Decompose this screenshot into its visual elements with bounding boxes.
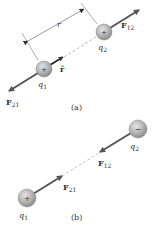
force12-label-b: F12 [98, 158, 112, 169]
charge-q2: + [96, 24, 112, 40]
charge-q2-b: − [129, 120, 147, 138]
separation-dashed-line [64, 37, 96, 57]
part-a: r r̂ + q1 + q2 F12 F21 (a) [6, 3, 139, 112]
force12-label: F12 [121, 20, 135, 31]
charge-q2-label-b: q2 [130, 142, 139, 152]
charge-q1: + [36, 61, 52, 77]
part-a-caption: (a) [71, 103, 82, 112]
svg-text:+: + [41, 66, 47, 74]
force21-arrow [9, 73, 38, 91]
dimension-extension-right [81, 3, 97, 24]
dimension-extension-left [22, 33, 38, 60]
svg-text:+: + [101, 29, 107, 37]
svg-text:+: + [24, 194, 31, 203]
distance-label: r [57, 20, 62, 29]
force21-label: F21 [6, 97, 19, 108]
charge-q1-label-b: q1 [19, 211, 28, 221]
distance-dimension-line [28, 9, 84, 41]
coulomb-force-diagram: r r̂ + q1 + q2 F12 F21 (a) [0, 0, 153, 237]
charge-q1-b: + [18, 189, 36, 207]
part-b: − q2 + q1 F12 F21 (b) [18, 120, 147, 222]
separation-dashed-line-b [62, 153, 99, 176]
unit-vector-label: r̂ [60, 64, 65, 74]
part-b-caption: (b) [71, 213, 82, 222]
svg-text:−: − [135, 125, 142, 134]
force21-label-b: F21 [63, 182, 76, 193]
charge-q2-label: q2 [98, 43, 107, 53]
force21-arrow-b [33, 176, 62, 194]
charge-q1-label: q1 [38, 80, 47, 90]
force12-arrow-b [100, 133, 131, 152]
